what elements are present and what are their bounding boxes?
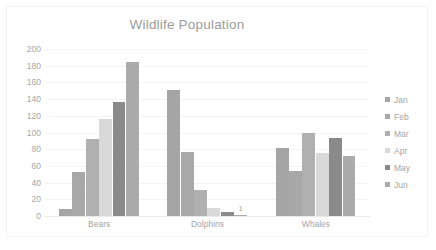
gridline bbox=[45, 216, 370, 217]
bar[interactable] bbox=[113, 102, 126, 216]
legend-swatch-icon bbox=[385, 131, 390, 136]
y-axis-tick-labels: 020406080100120140160180200 bbox=[9, 49, 41, 216]
legend-item[interactable]: Apr bbox=[385, 142, 433, 159]
legend-swatch-icon bbox=[385, 97, 390, 102]
legend-item-label: Jun bbox=[394, 180, 408, 190]
bar[interactable] bbox=[207, 208, 220, 216]
bar[interactable] bbox=[329, 138, 342, 216]
y-axis-tick-label: 180 bbox=[9, 61, 41, 71]
x-axis-tick-label: Dolphins bbox=[191, 219, 224, 229]
bar-group bbox=[59, 49, 139, 216]
y-axis-tick-label: 80 bbox=[9, 144, 41, 154]
bar[interactable] bbox=[276, 148, 289, 216]
legend-item[interactable]: Mar bbox=[385, 125, 433, 142]
bar[interactable] bbox=[99, 119, 112, 216]
bar[interactable] bbox=[289, 171, 302, 216]
chart-title: Wildlife Population bbox=[7, 17, 367, 32]
bar[interactable] bbox=[316, 153, 329, 216]
legend-item[interactable]: Feb bbox=[385, 108, 433, 125]
legend-swatch-icon bbox=[385, 114, 390, 119]
legend-item-label: Mar bbox=[394, 129, 409, 139]
chart-frame: Wildlife Population 02040608010012014016… bbox=[6, 6, 428, 237]
y-axis-tick-label: 20 bbox=[9, 194, 41, 204]
x-axis-tick-label: Bears bbox=[88, 219, 110, 229]
bar[interactable] bbox=[167, 90, 180, 216]
legend-item[interactable]: May bbox=[385, 159, 433, 176]
legend-swatch-icon bbox=[385, 148, 390, 153]
y-axis-tick-label: 120 bbox=[9, 111, 41, 121]
bar[interactable] bbox=[59, 209, 72, 216]
y-axis-tick-label: 200 bbox=[9, 44, 41, 54]
y-axis-tick-label: 0 bbox=[9, 211, 41, 221]
legend-item[interactable]: Jun bbox=[385, 176, 433, 193]
y-axis-tick-label: 100 bbox=[9, 128, 41, 138]
bar[interactable] bbox=[72, 172, 85, 216]
y-axis-tick-label: 60 bbox=[9, 161, 41, 171]
chart-legend: JanFebMarAprMayJun bbox=[385, 91, 433, 193]
bar[interactable] bbox=[126, 62, 139, 216]
y-axis-tick-label: 140 bbox=[9, 94, 41, 104]
bar[interactable] bbox=[221, 212, 234, 216]
bar[interactable]: 1 bbox=[234, 215, 247, 216]
bar[interactable] bbox=[181, 152, 194, 216]
legend-item-label: Feb bbox=[394, 112, 409, 122]
bar-series-layer: 1 bbox=[45, 49, 370, 216]
bar-group: 1 bbox=[167, 49, 247, 216]
x-axis-tick-labels: BearsDolphinsWhales bbox=[45, 219, 370, 235]
legend-item-label: Jan bbox=[394, 95, 408, 105]
legend-swatch-icon bbox=[385, 182, 390, 187]
bar[interactable] bbox=[86, 139, 99, 216]
y-axis-tick-label: 40 bbox=[9, 178, 41, 188]
bar[interactable] bbox=[343, 156, 356, 216]
legend-item[interactable]: Jan bbox=[385, 91, 433, 108]
bar-group bbox=[276, 49, 356, 216]
bar[interactable] bbox=[302, 133, 315, 217]
bar[interactable] bbox=[194, 190, 207, 216]
legend-swatch-icon bbox=[385, 165, 390, 170]
legend-item-label: May bbox=[394, 163, 410, 173]
bar-data-label: 1 bbox=[238, 204, 242, 213]
x-axis-tick-label: Whales bbox=[302, 219, 330, 229]
y-axis-tick-label: 160 bbox=[9, 77, 41, 87]
plot-area: 020406080100120140160180200 1 bbox=[45, 49, 370, 216]
legend-item-label: Apr bbox=[394, 146, 407, 156]
